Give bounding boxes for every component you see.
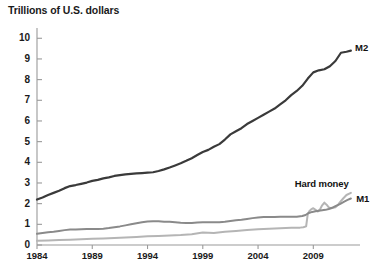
x-tick-label-1999: 1999 [181, 251, 225, 261]
y-tick-label-8: 8 [8, 75, 30, 85]
y-tick-label-5: 5 [8, 137, 30, 147]
x-tick-label-2004: 2004 [236, 251, 280, 261]
plot-area [0, 0, 380, 274]
x-tick-label-1984: 1984 [15, 251, 59, 261]
x-tick-label-1989: 1989 [70, 251, 114, 261]
x-tick-label-2009: 2009 [291, 251, 335, 261]
y-tick-label-9: 9 [8, 54, 30, 64]
series-line-m1 [37, 198, 351, 233]
series-label-m2: M2 [355, 42, 368, 53]
y-tick-label-6: 6 [8, 116, 30, 126]
y-tick-label-3: 3 [8, 178, 30, 188]
y-tick-label-4: 4 [8, 157, 30, 167]
series-label-hard-money: Hard money [295, 178, 349, 189]
y-tick-label-2: 2 [8, 199, 30, 209]
series-group [37, 51, 351, 241]
y-tick-label-1: 1 [8, 219, 30, 229]
x-tick-label-1994: 1994 [126, 251, 170, 261]
series-line-hard-money [37, 193, 351, 241]
axis-group [37, 28, 360, 249]
y-tick-label-0: 0 [8, 240, 30, 250]
y-tick-label-7: 7 [8, 95, 30, 105]
series-label-m1: M1 [356, 193, 369, 204]
money-supply-chart: Trillions of U.S. dollars 012345678910 1… [0, 0, 380, 274]
y-tick-label-10: 10 [8, 33, 30, 43]
